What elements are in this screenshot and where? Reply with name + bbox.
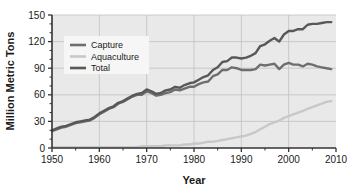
chart-legend: CaptureAquacultureTotal: [64, 36, 149, 74]
x-tick-label: 2000: [278, 154, 301, 165]
y-tick-label: 0: [39, 143, 45, 154]
x-tick-label: 2010: [325, 154, 348, 165]
legend-label-capture: Capture: [91, 40, 123, 50]
x-axis-ticks: 1950196019701980199020002010: [41, 148, 348, 165]
y-axis-title: Million Metric Tons: [4, 32, 16, 131]
fisheries-production-line-chart: 1950196019701980199020002010 03060901201…: [0, 0, 352, 188]
y-tick-label: 150: [28, 10, 45, 21]
legend-label-total: Total: [91, 63, 110, 73]
x-tick-label: 1960: [88, 154, 111, 165]
y-tick-label: 120: [28, 36, 45, 47]
y-axis-ticks: 0306090120150: [28, 10, 52, 154]
y-tick-label: 60: [34, 89, 46, 100]
x-tick-label: 1950: [41, 154, 64, 165]
chart-figure: 1950196019701980199020002010 03060901201…: [0, 0, 352, 188]
x-tick-label: 1980: [183, 154, 206, 165]
y-tick-label: 90: [34, 63, 46, 74]
y-tick-label: 30: [34, 116, 46, 127]
x-tick-label: 1990: [230, 154, 253, 165]
x-tick-label: 1970: [136, 154, 159, 165]
x-axis-title: Year: [182, 174, 206, 186]
legend-label-aquaculture: Aquaculture: [91, 52, 139, 62]
